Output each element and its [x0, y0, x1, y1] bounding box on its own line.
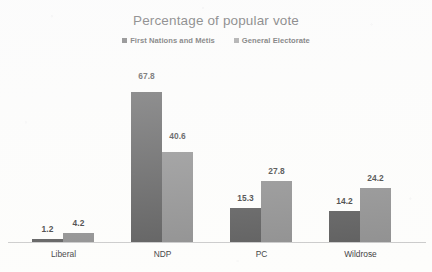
bar-value-label: 4.2	[53, 218, 104, 228]
category-label-ndp: NDP	[137, 249, 188, 259]
bar-value-label: 67.8	[121, 71, 172, 81]
plot-area: 1.2 4.2 Liberal 67.8 40.6 NDP 15.3 27.8 …	[0, 0, 432, 272]
bar-wildrose-general-electorate[interactable]	[360, 188, 391, 242]
bar-chart: Percentage of popular vote First Nations…	[0, 0, 432, 272]
bar-pc-general-electorate[interactable]	[261, 181, 292, 242]
bar-ndp-first-nations-and-metis[interactable]	[131, 92, 162, 242]
category-label-wildrose: Wildrose	[335, 249, 386, 259]
bar-value-label: 40.6	[152, 131, 203, 141]
category-label-liberal: Liberal	[38, 249, 89, 259]
category-label-pc: PC	[236, 249, 287, 259]
x-axis-line	[8, 242, 426, 243]
bar-value-label: 27.8	[251, 166, 302, 176]
bar-pc-first-nations-and-metis[interactable]	[230, 208, 261, 242]
bar-value-label: 24.2	[350, 173, 401, 183]
bar-wildrose-first-nations-and-metis[interactable]	[329, 211, 360, 242]
bar-liberal-general-electorate[interactable]	[63, 233, 94, 242]
bar-ndp-general-electorate[interactable]	[162, 152, 193, 242]
